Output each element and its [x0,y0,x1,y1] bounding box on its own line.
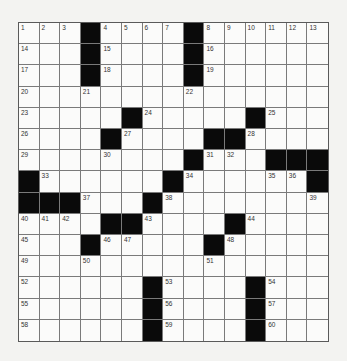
answer-cell[interactable] [163,150,184,171]
answer-cell[interactable] [307,277,328,298]
answer-cell[interactable]: 11 [266,23,287,44]
answer-cell[interactable] [143,150,164,171]
answer-cell[interactable]: 22 [184,87,205,108]
answer-cell[interactable] [225,193,246,214]
answer-cell[interactable] [101,256,122,277]
answer-cell[interactable] [266,87,287,108]
answer-cell[interactable]: 10 [246,23,267,44]
answer-cell[interactable] [122,87,143,108]
answer-cell[interactable]: 46 [101,235,122,256]
answer-cell[interactable] [266,44,287,65]
answer-cell[interactable] [184,214,205,235]
answer-cell[interactable] [225,171,246,192]
answer-cell[interactable] [287,44,308,65]
answer-cell[interactable] [184,193,205,214]
answer-cell[interactable]: 42 [60,214,81,235]
answer-cell[interactable] [163,44,184,65]
answer-cell[interactable] [60,129,81,150]
answer-cell[interactable]: 4 [101,23,122,44]
answer-cell[interactable] [81,171,102,192]
answer-cell[interactable] [60,277,81,298]
answer-cell[interactable] [246,235,267,256]
answer-cell[interactable] [163,214,184,235]
answer-cell[interactable] [266,193,287,214]
answer-cell[interactable]: 59 [163,320,184,341]
answer-cell[interactable] [246,44,267,65]
answer-cell[interactable]: 41 [40,214,61,235]
answer-cell[interactable] [143,256,164,277]
answer-cell[interactable] [225,299,246,320]
answer-cell[interactable] [307,235,328,256]
answer-cell[interactable] [266,256,287,277]
answer-cell[interactable] [143,235,164,256]
answer-cell[interactable] [225,65,246,86]
answer-cell[interactable] [60,171,81,192]
answer-cell[interactable] [122,171,143,192]
answer-cell[interactable]: 58 [19,320,40,341]
answer-cell[interactable] [81,108,102,129]
answer-cell[interactable] [40,150,61,171]
answer-cell[interactable]: 20 [19,87,40,108]
answer-cell[interactable] [101,320,122,341]
answer-cell[interactable]: 26 [19,129,40,150]
answer-cell[interactable]: 16 [204,44,225,65]
answer-cell[interactable] [101,277,122,298]
answer-cell[interactable] [287,129,308,150]
answer-cell[interactable] [40,277,61,298]
answer-cell[interactable]: 23 [19,108,40,129]
answer-cell[interactable]: 31 [204,150,225,171]
answer-cell[interactable] [163,256,184,277]
answer-cell[interactable] [225,320,246,341]
answer-cell[interactable] [307,256,328,277]
answer-cell[interactable] [60,108,81,129]
answer-cell[interactable] [163,129,184,150]
answer-cell[interactable] [101,193,122,214]
answer-cell[interactable]: 45 [19,235,40,256]
answer-cell[interactable] [266,214,287,235]
answer-cell[interactable] [122,65,143,86]
answer-cell[interactable]: 33 [40,171,61,192]
answer-cell[interactable] [246,256,267,277]
answer-cell[interactable] [60,150,81,171]
answer-cell[interactable] [225,277,246,298]
answer-cell[interactable]: 14 [19,44,40,65]
answer-cell[interactable] [204,87,225,108]
answer-cell[interactable] [307,65,328,86]
answer-cell[interactable]: 56 [163,299,184,320]
answer-cell[interactable] [184,235,205,256]
answer-cell[interactable] [122,320,143,341]
answer-cell[interactable]: 32 [225,150,246,171]
answer-cell[interactable] [60,320,81,341]
answer-cell[interactable]: 34 [184,171,205,192]
answer-cell[interactable] [81,277,102,298]
answer-cell[interactable] [40,235,61,256]
answer-cell[interactable] [163,87,184,108]
answer-cell[interactable] [40,320,61,341]
answer-cell[interactable] [287,108,308,129]
answer-cell[interactable]: 5 [122,23,143,44]
answer-cell[interactable]: 25 [266,108,287,129]
answer-cell[interactable]: 1 [19,23,40,44]
answer-cell[interactable] [204,299,225,320]
answer-cell[interactable]: 36 [287,171,308,192]
answer-cell[interactable] [184,256,205,277]
answer-cell[interactable] [204,277,225,298]
answer-cell[interactable] [40,108,61,129]
answer-cell[interactable] [101,108,122,129]
answer-cell[interactable]: 60 [266,320,287,341]
answer-cell[interactable] [204,320,225,341]
answer-cell[interactable] [204,193,225,214]
answer-cell[interactable] [307,214,328,235]
answer-cell[interactable] [246,171,267,192]
answer-cell[interactable]: 37 [81,193,102,214]
answer-cell[interactable]: 6 [143,23,164,44]
answer-cell[interactable] [163,108,184,129]
answer-cell[interactable]: 44 [246,214,267,235]
answer-cell[interactable] [184,299,205,320]
answer-cell[interactable]: 29 [19,150,40,171]
answer-cell[interactable] [40,129,61,150]
answer-cell[interactable] [40,299,61,320]
answer-cell[interactable] [225,87,246,108]
answer-cell[interactable] [40,87,61,108]
answer-cell[interactable] [287,214,308,235]
